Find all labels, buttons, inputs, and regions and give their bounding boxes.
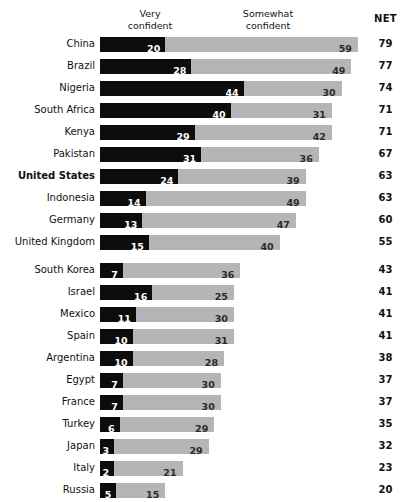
- bar-value-somewhat-confident: 15: [146, 489, 159, 498]
- net-value: 74: [358, 80, 413, 96]
- bar-track: 730: [100, 395, 358, 410]
- bar-segment-very-confident: 2: [100, 461, 114, 476]
- bar-value-very-confident: 7: [111, 401, 118, 410]
- bar-value-very-confident: 16: [134, 291, 147, 300]
- bar-segment-very-confident: 40: [100, 103, 231, 118]
- bar-track: 329: [100, 439, 358, 454]
- net-value: 20: [358, 482, 413, 498]
- bar-value-very-confident: 10: [114, 335, 127, 344]
- bar-segment-very-confident: 13: [100, 213, 142, 228]
- bar-segment-somewhat-confident: 49: [146, 191, 306, 206]
- bar-track: 730: [100, 373, 358, 388]
- chart-row: Russia51520: [0, 482, 413, 502]
- bar-segment-very-confident: 7: [100, 373, 123, 388]
- bar-segment-very-confident: 15: [100, 235, 149, 250]
- bar-segment-very-confident: 44: [100, 81, 244, 96]
- bar-value-very-confident: 7: [111, 379, 118, 388]
- bar-value-very-confident: 15: [131, 241, 144, 250]
- bar-segment-very-confident: 6: [100, 417, 120, 432]
- bar-value-somewhat-confident: 31: [215, 335, 228, 344]
- bar-track: 1130: [100, 307, 358, 322]
- chart-row: China205979: [0, 36, 413, 58]
- bar-segment-very-confident: 10: [100, 329, 133, 344]
- bar-segment-somewhat-confident: 39: [178, 169, 305, 184]
- row-label-china: China: [0, 36, 95, 52]
- bar-track: 1347: [100, 213, 358, 228]
- net-value: 63: [358, 168, 413, 184]
- net-value: 77: [358, 58, 413, 74]
- bar-value-somewhat-confident: 40: [260, 241, 273, 250]
- chart-row: Argentina102838: [0, 350, 413, 372]
- row-label-indonesia: Indonesia: [0, 190, 95, 206]
- row-label-japan: Japan: [0, 438, 95, 454]
- row-label-italy: Italy: [0, 460, 95, 476]
- bar-track: 1028: [100, 351, 358, 366]
- bar-segment-somewhat-confident: 36: [123, 263, 241, 278]
- chart-row: Indonesia144963: [0, 190, 413, 212]
- bar-value-very-confident: 13: [124, 219, 137, 228]
- bar-value-very-confident: 7: [111, 269, 118, 278]
- chart-row: Mexico113041: [0, 306, 413, 328]
- bar-segment-very-confident: 11: [100, 307, 136, 322]
- bar-segment-somewhat-confident: 36: [201, 147, 319, 162]
- chart-rows: China205979Brazil284977Nigeria443074Sout…: [0, 36, 413, 502]
- bar-segment-somewhat-confident: 25: [152, 285, 234, 300]
- bar-segment-somewhat-confident: 47: [142, 213, 295, 228]
- bar-segment-somewhat-confident: 49: [191, 59, 351, 74]
- net-column-header: NET: [358, 13, 413, 24]
- row-label-turkey: Turkey: [0, 416, 95, 432]
- bar-value-somewhat-confident: 28: [205, 357, 218, 366]
- bar-value-somewhat-confident: 30: [202, 379, 215, 388]
- bar-segment-very-confident: 20: [100, 37, 165, 52]
- bar-value-somewhat-confident: 30: [215, 313, 228, 322]
- bar-value-somewhat-confident: 29: [195, 423, 208, 432]
- net-value: 41: [358, 328, 413, 344]
- bar-value-very-confident: 29: [176, 131, 189, 140]
- net-value: 38: [358, 350, 413, 366]
- row-label-pakistan: Pakistan: [0, 146, 95, 162]
- net-value: 71: [358, 124, 413, 140]
- bar-segment-somewhat-confident: 31: [231, 103, 332, 118]
- bar-track: 2059: [100, 37, 358, 52]
- row-label-brazil: Brazil: [0, 58, 95, 74]
- net-value: 71: [358, 102, 413, 118]
- chart-row: Italy22123: [0, 460, 413, 482]
- bar-segment-very-confident: 29: [100, 125, 195, 140]
- legend-somewhat-confident: Somewhat confident: [214, 8, 322, 31]
- net-value: 55: [358, 234, 413, 250]
- bar-value-very-confident: 28: [173, 65, 186, 74]
- bar-segment-very-confident: 16: [100, 285, 152, 300]
- row-label-israel: Israel: [0, 284, 95, 300]
- bar-track: 2849: [100, 59, 358, 74]
- bar-value-very-confident: 31: [183, 153, 196, 162]
- legend-very-confident: Very confident: [104, 8, 196, 31]
- net-value: 67: [358, 146, 413, 162]
- bar-segment-very-confident: 5: [100, 483, 116, 498]
- bar-value-somewhat-confident: 30: [202, 401, 215, 410]
- bar-track: 2439: [100, 169, 358, 184]
- net-value: 60: [358, 212, 413, 228]
- bar-track: 629: [100, 417, 358, 432]
- row-label-france: France: [0, 394, 95, 410]
- bar-value-somewhat-confident: 31: [313, 109, 326, 118]
- bar-segment-somewhat-confident: 30: [244, 81, 342, 96]
- chart-row: Egypt73037: [0, 372, 413, 394]
- bar-track: 1540: [100, 235, 358, 250]
- bar-segment-very-confident: 7: [100, 395, 123, 410]
- chart-row: Spain103141: [0, 328, 413, 350]
- bar-value-somewhat-confident: 36: [221, 269, 234, 278]
- bar-track: 4430: [100, 81, 358, 96]
- bar-track: 736: [100, 263, 358, 278]
- chart-row: Germany134760: [0, 212, 413, 234]
- chart-row: France73037: [0, 394, 413, 416]
- chart-row: Kenya294271: [0, 124, 413, 146]
- chart-row: Turkey62935: [0, 416, 413, 438]
- bar-track: 515: [100, 483, 358, 498]
- bar-value-very-confident: 44: [225, 87, 238, 96]
- bar-value-somewhat-confident: 25: [215, 291, 228, 300]
- bar-value-somewhat-confident: 49: [287, 197, 300, 206]
- bar-track: 1031: [100, 329, 358, 344]
- bar-track: 1449: [100, 191, 358, 206]
- bar-segment-somewhat-confident: 29: [120, 417, 215, 432]
- row-label-south-africa: South Africa: [0, 102, 95, 118]
